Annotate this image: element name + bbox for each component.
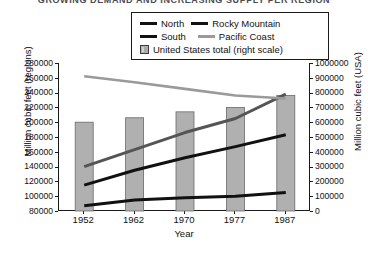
bar-us-total (126, 118, 144, 211)
legend-row-2: South Pacific Coast (140, 30, 322, 43)
y-axis-left-tick-mark (55, 211, 58, 212)
y-axis-right-title: Million cubic feet (USA) (352, 37, 363, 167)
legend-swatch-us-total-icon (140, 45, 149, 54)
line-series-pacific-coast (84, 76, 286, 98)
chart-title-text: GROWING DEMAND AND INCREASING SUPPLY PER… (0, 0, 368, 5)
legend-swatch-north-icon (140, 22, 157, 25)
legend-label-us-total: United States total (right scale) (153, 45, 283, 55)
legend-label-south: South (161, 32, 186, 42)
chart-title: GROWING DEMAND AND INCREASING SUPPLY PER… (0, 0, 368, 7)
y-axis-left-tick-label: 100000 (5, 192, 53, 201)
x-axis-tick-label: 1987 (265, 215, 305, 225)
y-axis-left-tick-label: 80000 (5, 207, 53, 216)
y-axis-left-title: Million cubic feet (regions) (22, 37, 33, 167)
legend-swatch-south-icon (140, 35, 157, 38)
legend-swatch-rocky-mountain-icon (191, 22, 208, 25)
legend-row-1: North Rocky Mountain (140, 17, 322, 30)
y-axis-right-tick-label: 700000 (315, 103, 344, 112)
x-axis-tick-label: 1952 (63, 215, 103, 225)
legend-swatch-pacific-coast-icon (198, 35, 215, 38)
y-axis-right-tick-label: 600000 (315, 118, 344, 127)
plot-canvas (59, 63, 311, 211)
x-axis-tick-mark (134, 211, 135, 214)
y-axis-right-tick-label: 0 (315, 207, 320, 216)
x-axis-tick-label: 1962 (114, 215, 154, 225)
y-axis-right-tick-label: 900000 (315, 74, 344, 83)
legend-label-rocky-mountain: Rocky Mountain (212, 19, 280, 29)
plot-area (58, 63, 310, 211)
x-axis-tick-mark (234, 211, 235, 214)
y-axis-left-tick-label: 120000 (5, 177, 53, 186)
legend-label-pacific-coast: Pacific Coast (219, 32, 274, 42)
y-axis-right-tick-label: 400000 (315, 148, 344, 157)
chart-legend: North Rocky Mountain South Pacific Coast… (131, 12, 329, 60)
chart-figure: GROWING DEMAND AND INCREASING SUPPLY PER… (0, 0, 368, 257)
legend-item-us-total: United States total (right scale) (140, 45, 283, 55)
x-axis-tick-label: 1977 (214, 215, 254, 225)
x-axis-tick-mark (83, 211, 84, 214)
legend-item-rocky-mountain: Rocky Mountain (191, 19, 280, 29)
y-axis-right-tick-label: 100000 (315, 192, 344, 201)
x-axis-title: Year (0, 228, 368, 239)
x-axis-tick-mark (285, 211, 286, 214)
x-axis-tick-mark (184, 211, 185, 214)
y-axis-right-tick-label: 800000 (315, 88, 344, 97)
legend-row-3: United States total (right scale) (140, 43, 322, 56)
y-axis-right-tick-label: 500000 (315, 133, 344, 142)
legend-item-south: South (140, 32, 186, 42)
legend-label-north: North (161, 19, 184, 29)
legend-item-pacific-coast: Pacific Coast (198, 32, 274, 42)
legend-item-north: North (140, 19, 184, 29)
y-axis-right-tick-label: 300000 (315, 162, 344, 171)
y-axis-right-tick-mark (310, 211, 313, 212)
x-axis-tick-label: 1970 (164, 215, 204, 225)
y-axis-right-tick-label: 200000 (315, 177, 344, 186)
bar-us-total (75, 122, 93, 211)
